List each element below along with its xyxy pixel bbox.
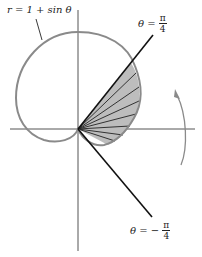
upper-ray-lhs: θ = — [138, 18, 156, 29]
lower-ray-den: 4 — [163, 231, 169, 241]
curve-label-leader — [36, 19, 42, 40]
upper-ray-fraction: π 4 — [159, 14, 167, 34]
polar-diagram — [0, 0, 202, 257]
lower-ray-lhs: θ = — [130, 225, 148, 236]
lower-ray-num: π — [162, 221, 170, 231]
lower-ray-sign: − — [151, 225, 159, 236]
lower-ray-fraction: π 4 — [162, 221, 170, 241]
ray-theta-minus-pi-over-4 — [78, 129, 152, 217]
upper-ray-den: 4 — [160, 24, 166, 34]
upper-ray-num: π — [159, 14, 167, 24]
arrowhead-icon — [174, 89, 180, 99]
rotation-arrow — [177, 95, 186, 165]
lower-ray-label: θ = − π 4 — [130, 221, 170, 241]
upper-ray-label: θ = π 4 — [138, 14, 167, 34]
curve-label: r = 1 + sin θ — [7, 5, 72, 15]
